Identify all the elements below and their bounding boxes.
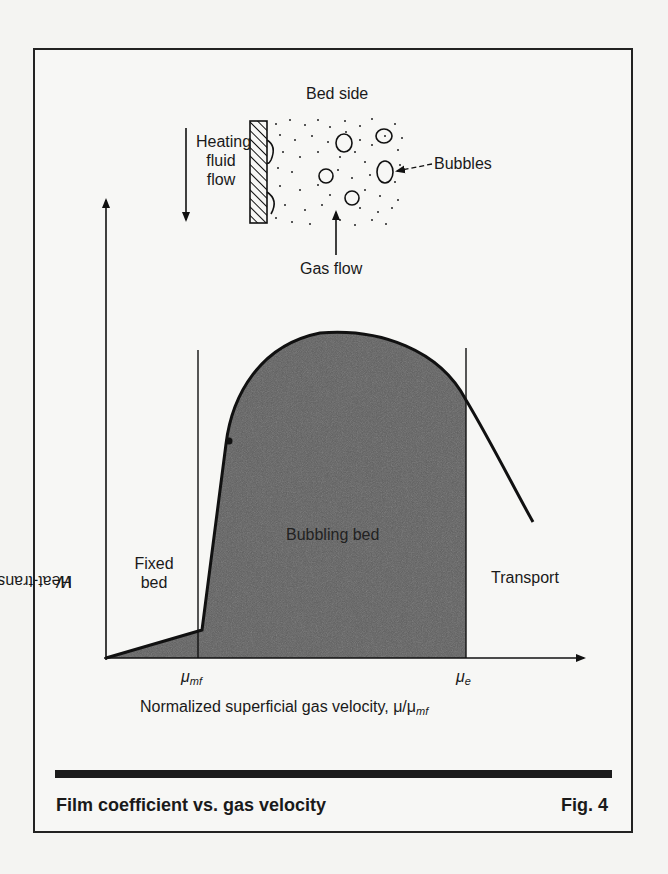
figure-graphic: [0, 0, 668, 874]
heating-fluid-flow-label: Heating fluid flow: [196, 132, 246, 189]
bubbling-bed-label: Bubbling bed: [286, 525, 379, 544]
x-axis-label: Normalized superficial gas velocity, μ/μ…: [140, 697, 428, 721]
bed-side-label: Bed side: [306, 84, 368, 103]
figure-caption: Film coefficient vs. gas velocity: [56, 795, 326, 816]
particles-dots: [275, 118, 403, 226]
tick-ue: μe: [456, 667, 471, 691]
bubbles-leader-line: [397, 164, 432, 171]
bubbles-label: Bubbles: [434, 154, 492, 173]
caption-rule: [55, 770, 612, 778]
gas-flow-label: Gas flow: [300, 259, 362, 278]
bubbles-icon: [319, 129, 393, 205]
fixed-bed-label: Fixed bed: [124, 554, 184, 592]
transport-label: Transport: [491, 568, 559, 587]
figure-number: Fig. 4: [561, 795, 608, 816]
tick-umf: μmf: [181, 667, 202, 691]
heated-wall-icon: [250, 121, 274, 223]
